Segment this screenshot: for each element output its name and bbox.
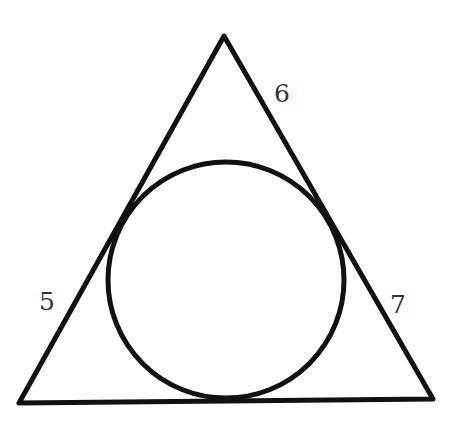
triangle-incircle-diagram: 5 6 7 (0, 0, 453, 429)
side-label-right-upper: 6 (274, 79, 290, 108)
inscribed-circle (108, 162, 344, 398)
side-label-right-lower: 7 (390, 290, 406, 319)
side-label-left: 5 (39, 287, 55, 316)
triangle (19, 36, 433, 403)
